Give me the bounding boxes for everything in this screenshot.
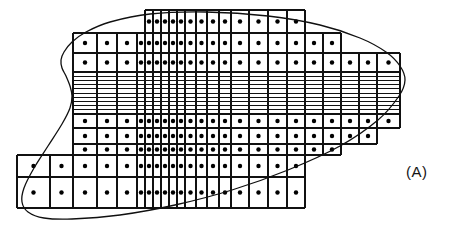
mesh-diagram [0,0,450,238]
panel-label: (A) [406,163,428,180]
figure-panel: (A) [0,0,450,238]
